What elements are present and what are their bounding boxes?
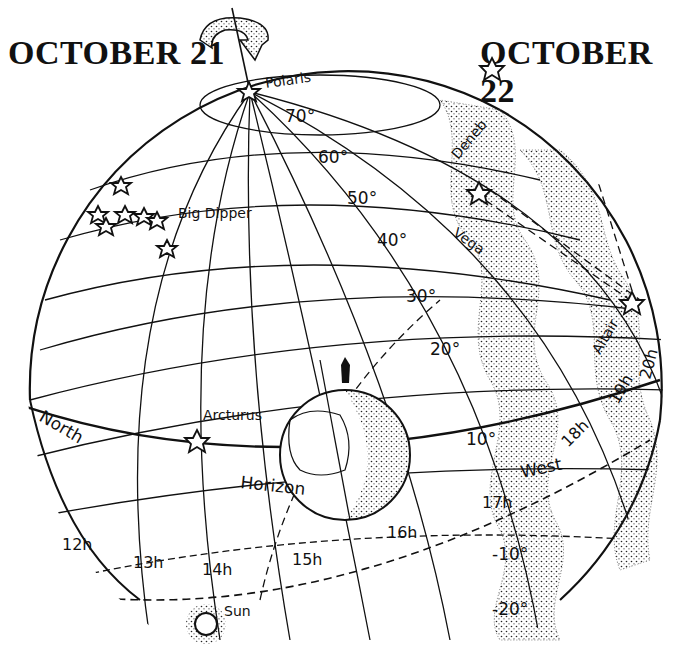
label-dec-10: 10°: [466, 429, 496, 449]
observer-figure: [341, 357, 350, 383]
star-dipper-7-icon: [157, 240, 177, 257]
label-arcturus: Arcturus: [203, 407, 262, 423]
label-dec-70: 70°: [285, 106, 315, 126]
label-polaris: Polaris: [264, 69, 312, 91]
label-dec-30: 30°: [406, 286, 436, 306]
star-dipper-4-icon: [115, 206, 135, 223]
label-20h: 20h: [636, 347, 662, 381]
label-dec-60: 60°: [318, 147, 348, 167]
label-north: North: [36, 406, 87, 447]
label-dec-20: 20°: [430, 339, 460, 359]
milky-way-band: [440, 100, 657, 640]
star-arcturus-icon: [185, 430, 209, 452]
label-18h: 18h: [557, 416, 592, 451]
label-16h: 16h: [387, 523, 418, 542]
label-15h: 15h: [292, 550, 323, 569]
label-sun: Sun: [224, 603, 251, 619]
label-14h: 14h: [202, 560, 233, 579]
label-dec-40: 40°: [377, 230, 407, 250]
label-17h: 17h: [482, 493, 513, 512]
label-13h: 13h: [133, 553, 164, 572]
label-big-dipper: Big Dipper: [178, 205, 252, 221]
label-dec-minus-10: -10°: [492, 544, 528, 564]
label-12h: 12h: [62, 535, 93, 554]
label-dec-minus-20: -20°: [492, 599, 528, 619]
celestial-sphere-diagram: Polaris Big Dipper Deneb Vega Altair Arc…: [0, 0, 679, 649]
hour-circle-lines: [138, 92, 671, 640]
star-deneb-icon: [480, 58, 504, 80]
sun-icon: [186, 604, 226, 644]
star-dipper-1-icon: [111, 177, 131, 194]
label-dec-50: 50°: [347, 188, 377, 208]
